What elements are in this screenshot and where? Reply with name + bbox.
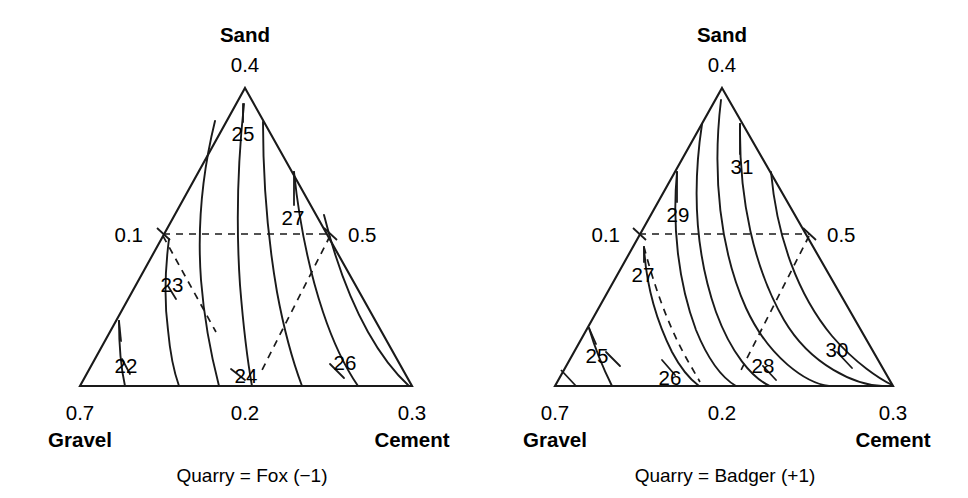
contour-line-24b-fox (238, 104, 252, 386)
apex-value-badger: 0.4 (708, 53, 737, 76)
contour-label-27-badger: 27 (632, 263, 655, 286)
right-value-fox: 0.3 (398, 401, 427, 424)
right-value-badger: 0.3 (879, 401, 908, 424)
right-label-cement-badger: Cement (855, 428, 930, 451)
caption-badger: Quarry = Badger (+1) (635, 465, 816, 486)
contour-line-30-badger (740, 124, 882, 386)
contour-label-22-fox: 22 (115, 354, 138, 377)
contour-label-28-badger: 28 (752, 354, 775, 377)
mid-left-value-fox: 0.1 (115, 223, 144, 246)
left-value-badger: 0.7 (541, 401, 570, 424)
contour-label-27-fox: 27 (282, 206, 305, 229)
right-label-cement-fox: Cement (374, 428, 449, 451)
contour-label-25-badger: 25 (586, 344, 609, 367)
apex-value-fox: 0.4 (231, 53, 260, 76)
contour-label-26-fox: 26 (334, 351, 357, 374)
contour-line-29-badger (717, 100, 829, 386)
contour-label-23-fox: 23 (161, 273, 184, 296)
left-label-gravel-badger: Gravel (523, 428, 587, 451)
apex-label-sand-fox: Sand (220, 23, 270, 46)
caption-fox: Quarry = Fox (−1) (177, 465, 328, 486)
bottom-mid-value-badger: 0.2 (708, 401, 737, 424)
left-value-fox: 0.7 (66, 401, 95, 424)
contour-label-29-badger: 29 (667, 203, 690, 226)
apex-label-sand-badger: Sand (697, 23, 747, 46)
contour-label-30-badger: 30 (826, 338, 849, 361)
contour-label-25-fox: 25 (232, 122, 255, 145)
ternary-plot-fox: Sand 0.4 0.1 0.5 0.7 Gravel 0.2 0.3 Ceme… (0, 0, 484, 498)
contour-label-24-fox: 24 (235, 364, 258, 387)
mid-right-value-fox: 0.5 (348, 223, 377, 246)
corner-tick-badger (561, 370, 576, 386)
figure-root: Sand 0.4 0.1 0.5 0.7 Gravel 0.2 0.3 Ceme… (0, 0, 968, 498)
contour-line-24a-fox (200, 121, 219, 386)
contour-label-31-badger: 31 (731, 155, 754, 178)
ternary-plot-badger: Sand 0.4 0.1 0.5 0.7 Gravel 0.2 0.3 Ceme… (484, 0, 968, 498)
mid-left-value-badger: 0.1 (592, 223, 621, 246)
mid-right-value-badger: 0.5 (827, 223, 856, 246)
bottom-mid-value-fox: 0.2 (231, 401, 260, 424)
contour-line-25-fox (263, 122, 302, 386)
contour-label-26-badger: 26 (659, 366, 682, 389)
left-label-gravel-fox: Gravel (48, 428, 112, 451)
